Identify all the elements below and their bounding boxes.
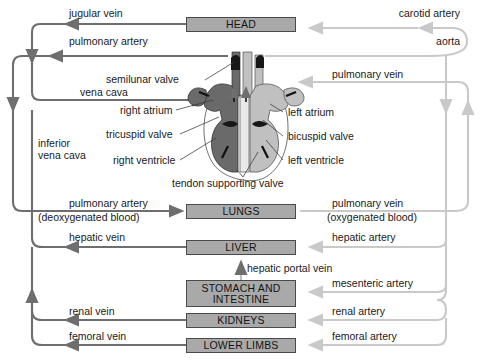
label-bicuspid-valve: bicuspid valve xyxy=(288,131,354,142)
leader-semilunar-valve xyxy=(205,62,234,80)
heart-body xyxy=(188,52,304,181)
organ-box-liver[interactable]: LIVER xyxy=(186,240,296,255)
aorta-trunk xyxy=(243,52,252,96)
organ-label: HEAD xyxy=(226,19,256,30)
label-hepatic-vein: hepatic vein xyxy=(69,232,125,243)
label-femoral-vein: femoral vein xyxy=(69,331,126,342)
organ-label: LIVER xyxy=(225,242,256,253)
organ-box-head[interactable]: HEAD xyxy=(186,17,296,32)
label-aorta: aorta xyxy=(330,36,460,47)
label-left-atrium: left atrium xyxy=(288,107,334,118)
label-renal-artery: renal artery xyxy=(332,306,385,317)
organ-box-kidneys[interactable]: KIDNEYS xyxy=(186,313,296,328)
organ-label: LUNGS xyxy=(222,206,259,217)
label-pulmonary-vein-top: pulmonary vein xyxy=(332,69,403,80)
label-oxygenated-blood: (oxygenated blood) xyxy=(327,212,417,223)
organ-box-lower-limbs[interactable]: LOWER LIMBS xyxy=(186,338,296,353)
label-semilunar-valve: semilunar valve xyxy=(106,74,179,85)
label-hepatic-artery: hepatic artery xyxy=(332,232,396,243)
label-left-ventricle: left ventricle xyxy=(288,155,344,166)
semilunar-valve-shape xyxy=(231,55,240,70)
organ-label: LOWER LIMBS xyxy=(203,340,278,351)
label-renal-vein: renal vein xyxy=(69,306,115,317)
label-pulmonary-artery-lungs: pulmonary artery xyxy=(69,198,148,209)
label-deoxygenated-blood: (deoxygenated blood) xyxy=(38,212,140,223)
label-mesenteric-artery: mesenteric artery xyxy=(332,278,413,289)
semilunar-valve-shape-2 xyxy=(256,55,264,68)
label-jugular-vein: jugular vein xyxy=(69,8,123,19)
label-tendon-supporting-valve: tendon supporting valve xyxy=(172,178,284,189)
septum xyxy=(240,96,249,172)
label-inferior-vena-cava-line1: inferior xyxy=(38,138,70,149)
label-hepatic-portal-vein: hepatic portal vein xyxy=(247,263,332,274)
label-femoral-artery: femoral artery xyxy=(332,331,397,342)
organ-box-stomach-intestine[interactable]: STOMACH AND INTESTINE xyxy=(186,280,296,307)
organ-label-line1: STOMACH AND xyxy=(201,283,280,294)
label-right-ventricle: right ventricle xyxy=(113,155,175,166)
organ-box-lungs[interactable]: LUNGS xyxy=(186,204,296,219)
label-tricuspid-valve: tricuspid valve xyxy=(106,129,173,140)
label-right-atrium: right atrium xyxy=(120,105,173,116)
circulation-diagram: HEAD LUNGS LIVER STOMACH AND INTESTINE K… xyxy=(0,0,482,360)
label-inferior-vena-cava-line2: vena cava xyxy=(38,150,86,161)
organ-label-line2: INTESTINE xyxy=(213,294,270,305)
label-vena-cava: vena cava xyxy=(80,87,128,98)
organ-label: KIDNEYS xyxy=(217,315,265,326)
label-pulmonary-artery-top: pulmonary artery xyxy=(69,36,148,47)
label-carotid-artery: carotid artery xyxy=(330,8,460,19)
right-auricle xyxy=(188,88,207,106)
label-pulmonary-vein-lungs: pulmonary vein xyxy=(332,198,403,209)
